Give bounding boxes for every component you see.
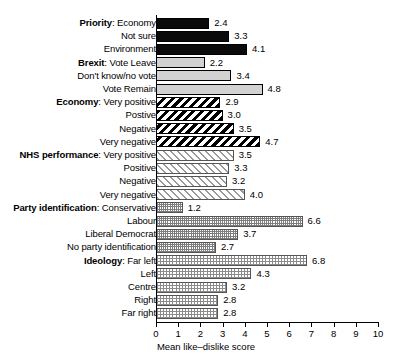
bar-label-text: Vote Remain — [103, 83, 156, 94]
bar-value-label: 3.2 — [232, 280, 245, 294]
bar-row: Economy: Very positive2.9 — [0, 95, 412, 109]
bar — [156, 57, 205, 68]
bar-label-text: Centre — [128, 281, 156, 292]
bar — [156, 229, 238, 240]
bar-category-label: NHS performance: Very positive — [20, 148, 156, 162]
bar-label-text: Far left — [127, 255, 156, 266]
bar-category-label: Labour — [127, 214, 156, 228]
bar-value-label: 3.2 — [232, 174, 245, 188]
bar-category-label: Postive — [126, 108, 156, 122]
bar-chart: Priority: Economy2.4Not sure3.3Environme… — [0, 0, 412, 358]
bar-label-text: Not sure — [121, 30, 156, 41]
x-tick-mark — [267, 323, 268, 327]
bar-row: Brexit: Vote Leave2.2 — [0, 56, 412, 70]
bar-value-label: 6.8 — [312, 254, 325, 268]
bar-row: Postive3.0 — [0, 108, 412, 122]
x-tick-mark — [334, 323, 335, 327]
bar-row: Very negative4.0 — [0, 188, 412, 202]
bar-category-label: Very negative — [100, 135, 156, 149]
bar-group-name: Priority — [80, 17, 112, 28]
bar-value-label: 2.2 — [210, 56, 223, 70]
bar — [156, 123, 234, 134]
bar-label-text: Conservative — [102, 202, 156, 213]
x-tick-mark — [245, 323, 246, 327]
bar-value-label: 4.3 — [256, 267, 269, 281]
bar-row: Very negative4.7 — [0, 135, 412, 149]
bar-row: Vote Remain4.8 — [0, 82, 412, 96]
x-tick-label: 10 — [363, 328, 393, 339]
bar-row: Don't know/no vote3.4 — [0, 69, 412, 83]
bar — [156, 202, 183, 213]
bar-row: Labour6.6 — [0, 214, 412, 228]
bar — [156, 18, 209, 29]
bar-category-label: Very negative — [100, 188, 156, 202]
bar — [156, 84, 263, 95]
bar-value-label: 2.4 — [214, 16, 227, 30]
bar-label-text: No party identification — [67, 241, 156, 252]
x-tick-mark — [223, 323, 224, 327]
bar-label-text: Negative — [119, 123, 156, 134]
x-tick-mark — [178, 323, 179, 327]
bar-category-label: Right — [134, 293, 156, 307]
bar — [156, 176, 227, 187]
x-tick-mark — [156, 323, 157, 327]
bar — [156, 268, 251, 279]
bar-category-label: Party identification: Conservative — [13, 201, 156, 215]
bar-label-text: Very negative — [100, 136, 156, 147]
bar-value-label: 2.7 — [221, 240, 234, 254]
bar-row: Positive3.3 — [0, 161, 412, 175]
bar-label-text: Vote Leave — [109, 57, 156, 68]
bar-label-text: Postive — [126, 109, 156, 120]
bar-value-label: 4.1 — [252, 42, 265, 56]
bar-value-label: 1.2 — [188, 201, 201, 215]
bar-row: Liberal Democrat3.7 — [0, 227, 412, 241]
bar-value-label: 4.8 — [268, 82, 281, 96]
bar-category-label: Negative — [119, 174, 156, 188]
bar-label-text: Negative — [119, 175, 156, 186]
bar-label-text: Economy — [117, 17, 156, 28]
bar-row: Ideology: Far left6.8 — [0, 254, 412, 268]
bar — [156, 70, 231, 81]
bar-row: NHS performance: Very positive3.5 — [0, 148, 412, 162]
bar — [156, 163, 229, 174]
bar-category-label: Don't know/no vote — [77, 69, 156, 83]
bar-value-label: 3.3 — [234, 29, 247, 43]
bar-row: Negative3.5 — [0, 122, 412, 136]
x-tick-mark — [311, 323, 312, 327]
x-tick-mark — [200, 323, 201, 327]
bar — [156, 242, 216, 253]
bar-category-label: No party identification — [67, 240, 156, 254]
bar — [156, 97, 220, 108]
bar-value-label: 4.0 — [250, 188, 263, 202]
bar-label-text: Environment — [104, 43, 156, 54]
bar — [156, 282, 227, 293]
bar-category-label: Environment — [104, 42, 156, 56]
x-axis-title: Mean like–dislike score — [0, 341, 412, 352]
bar-label-text: Very positive — [103, 149, 156, 160]
bar-label-text: Labour — [127, 215, 156, 226]
bar-category-label: Priority: Economy — [80, 16, 156, 30]
bar-label-text: Liberal Democrat — [85, 228, 156, 239]
bar-category-label: Vote Remain — [103, 82, 156, 96]
bar-category-label: Ideology: Far left — [84, 254, 156, 268]
bar — [156, 44, 247, 55]
bar-group-name: Ideology — [84, 255, 122, 266]
bar-value-label: 3.0 — [228, 108, 241, 122]
bar-label-text: Very negative — [100, 189, 156, 200]
bar-category-label: Positive — [124, 161, 156, 175]
bar-value-label: 3.3 — [234, 161, 247, 175]
bar-category-label: Economy: Very positive — [56, 95, 156, 109]
bar-row: Environment4.1 — [0, 42, 412, 56]
bar — [156, 150, 234, 161]
bar — [156, 255, 307, 266]
bar-row: Priority: Economy2.4 — [0, 16, 412, 30]
bar-category-label: Liberal Democrat — [85, 227, 156, 241]
bar-row: Left4.3 — [0, 267, 412, 281]
bar — [156, 216, 303, 227]
bar — [156, 31, 229, 42]
y-axis-line — [156, 15, 157, 322]
bar — [156, 110, 223, 121]
bar-group-name: Party identification — [13, 202, 97, 213]
bar-group-name: Brexit — [78, 57, 104, 68]
bar-category-label: Brexit: Vote Leave — [78, 56, 156, 70]
